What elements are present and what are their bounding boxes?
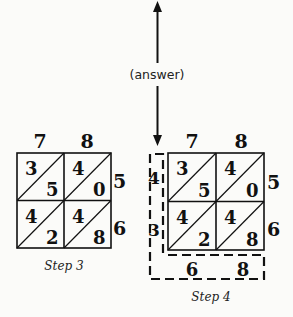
step3-lattice: 7 8 5 6 3 5 4 0 4 2 4 8 Step 3 <box>17 130 126 273</box>
cell-tens: 3 <box>25 158 38 179</box>
lattice-diagram: (answer) 7 8 5 6 3 5 4 0 4 2 4 8 Step 3 … <box>0 0 293 317</box>
cell-tens: 4 <box>25 206 38 227</box>
cell-tens: 4 <box>224 207 237 228</box>
cell-ones: 0 <box>246 180 259 201</box>
step3-right-digit: 5 <box>113 170 126 192</box>
cell-tens: 4 <box>224 158 237 179</box>
cell-tens: 4 <box>176 207 189 228</box>
answer-label: (answer) <box>130 67 185 82</box>
step4-right-digit: 5 <box>267 171 280 193</box>
cell-ones: 2 <box>198 229 211 250</box>
cell-ones: 5 <box>46 179 59 200</box>
step4-top-digit: 8 <box>234 130 247 152</box>
answer-arrow: (answer) <box>130 1 185 146</box>
cell-tens: 4 <box>72 206 85 227</box>
step4-lattice: 7 8 5 6 3 5 4 0 4 2 4 8 4 3 6 8 Step 4 <box>148 130 280 304</box>
step4-caption: Step 4 <box>191 290 230 304</box>
cell-ones: 5 <box>198 180 211 201</box>
bottom-result-digit: 8 <box>237 259 250 280</box>
cell-ones: 8 <box>93 227 106 248</box>
cell-ones: 0 <box>93 179 106 200</box>
left-result-digit: 3 <box>148 220 160 240</box>
step3-caption: Step 3 <box>44 259 84 273</box>
arrow-up-icon <box>153 1 162 12</box>
step4-top-digit: 7 <box>185 130 198 152</box>
cell-tens: 3 <box>176 158 189 179</box>
step3-right-digit: 6 <box>113 217 126 239</box>
cell-ones: 8 <box>246 229 259 250</box>
cell-ones: 2 <box>46 227 59 248</box>
step3-top-digit: 8 <box>80 130 93 152</box>
arrow-down-icon <box>153 135 162 146</box>
step3-top-digit: 7 <box>33 130 46 152</box>
left-result-digit: 4 <box>148 168 160 188</box>
bottom-result-digit: 6 <box>186 259 199 280</box>
cell-tens: 4 <box>72 158 85 179</box>
step4-right-digit: 6 <box>267 218 280 240</box>
